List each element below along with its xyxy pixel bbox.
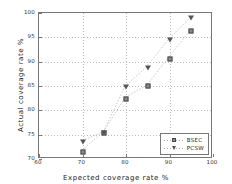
x-tick-label: 70: [78, 159, 85, 165]
triangle-down-marker-icon: [164, 144, 184, 152]
series-line-pcsw: [82, 18, 190, 140]
data-point-pcsw: [123, 85, 129, 90]
x-tick: [39, 154, 40, 157]
legend[interactable]: BSEC PCSW: [160, 133, 209, 155]
x-tick-label: 100: [206, 159, 217, 165]
legend-item-pcsw[interactable]: PCSW: [164, 144, 204, 152]
legend-item-bsec[interactable]: BSEC: [164, 136, 204, 144]
data-point-bsec: [167, 56, 172, 61]
plot-area: BSEC PCSW: [38, 12, 212, 158]
x-tick: [83, 154, 84, 157]
x-axis-label: Expected coverage rate %: [0, 174, 232, 182]
data-point-pcsw: [188, 16, 194, 21]
legend-label-bsec: BSEC: [187, 137, 203, 143]
x-tick-label: 80: [121, 159, 128, 165]
data-point-pcsw: [145, 65, 151, 70]
y-axis-label-wrap: Actual coverage rate %: [8, 12, 9, 158]
x-tick: [126, 154, 127, 157]
data-point-bsec: [189, 29, 194, 34]
y-tick: [39, 110, 42, 111]
chart-figure: BSEC PCSW 60708090100 707580859095100 Ex…: [0, 0, 232, 184]
data-point-pcsw: [80, 140, 86, 145]
data-point-pcsw: [167, 38, 173, 43]
y-tick: [39, 62, 42, 63]
y-tick-label: 100: [20, 9, 35, 15]
data-point-bsec: [124, 96, 129, 101]
y-tick-label: 70: [20, 155, 35, 161]
x-tick-label: 60: [34, 159, 41, 165]
data-point-bsec: [145, 84, 150, 89]
square-marker-icon: [164, 136, 184, 144]
y-tick: [39, 37, 42, 38]
y-tick: [39, 86, 42, 87]
y-tick: [39, 13, 42, 14]
y-axis-label: Actual coverage rate %: [17, 25, 25, 145]
x-tick-label: 90: [165, 159, 172, 165]
legend-label-pcsw: PCSW: [187, 145, 204, 151]
x-tick: [213, 154, 214, 157]
data-point-pcsw: [101, 131, 107, 136]
y-tick: [39, 135, 42, 136]
